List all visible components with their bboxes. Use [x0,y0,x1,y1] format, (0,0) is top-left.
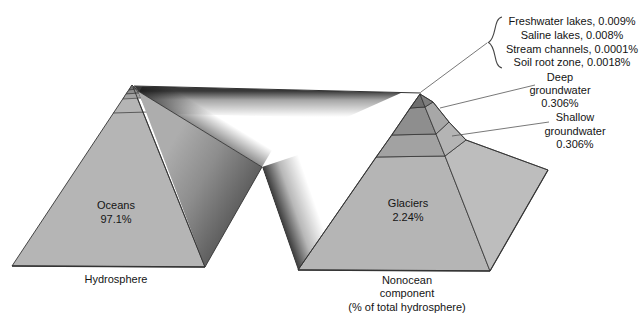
deep-groundwater-leader-line [440,85,535,108]
label-deep-groundwater-2: groundwater [529,84,590,96]
hydrosphere-pyramid-figure: Freshwater lakes, 0.009% Saline lakes, 0… [0,0,644,318]
label-deep-groundwater-1: Deep [547,71,573,83]
label-oceans-value: 97.1% [100,213,131,225]
label-saline-lakes: Saline lakes, 0.008% [521,29,624,41]
label-glaciers-value: 2.24% [392,211,423,223]
label-shallow-groundwater-3: 0.306% [556,138,594,150]
shallow-groundwater-leader-line [452,122,549,136]
grouping-brace [489,17,503,68]
tip-leader-line [421,43,487,92]
caption-nonocean-1: Nonocean [382,274,432,286]
caption-hydrosphere: Hydrosphere [85,273,148,285]
label-freshwater-lakes: Freshwater lakes, 0.009% [508,15,635,27]
label-stream-channels: Stream channels, 0.0001% [506,43,638,55]
label-shallow-groundwater-2: groundwater [544,125,605,137]
label-glaciers-name: Glaciers [388,197,429,209]
caption-nonocean-3: (% of total hydrosphere) [348,301,465,313]
caption-nonocean-2: component [380,287,434,299]
label-shallow-groundwater-1: Shallow [556,111,595,123]
label-deep-groundwater-3: 0.306% [541,97,579,109]
label-oceans-name: Oceans [97,199,135,211]
hydrosphere-diagram: Freshwater lakes, 0.009% Saline lakes, 0… [0,0,644,318]
label-soil-root-zone: Soil root zone, 0.0018% [514,56,631,68]
